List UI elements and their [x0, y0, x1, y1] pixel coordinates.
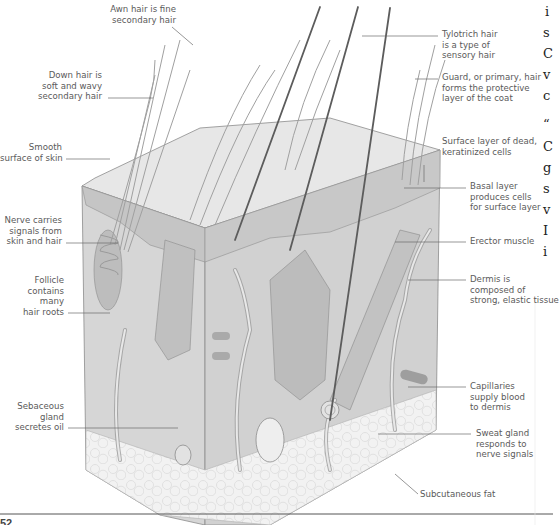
adjacent-page-fragment: s — [543, 179, 550, 199]
adjacent-page-fragment: c — [543, 86, 550, 106]
adjacent-page-fragment: v — [543, 65, 550, 85]
label-guard-hair: Guard, or primary, hair forms the protec… — [442, 72, 541, 104]
label-awn-hair: Awn hair is fine secondary hair — [86, 4, 176, 25]
label-subcutaneous-fat: Subcutaneous fat — [420, 489, 495, 500]
label-down-hair: Down hair is soft and wavy secondary hai… — [20, 70, 102, 102]
adjacent-page-fragment: i — [545, 2, 549, 22]
adjacent-page-fragment: i — [543, 242, 547, 262]
label-sweat-gland: Sweat gland responds to nerve signals — [476, 428, 533, 460]
adjacent-page-fragment: C — [543, 44, 553, 64]
adjacent-page-fragment: g — [543, 158, 551, 178]
label-tylotrich-hair: Tylotrich hair is a type of sensory hair — [442, 29, 497, 61]
label-basal-layer: Basal layer produces cells for surface l… — [470, 181, 541, 213]
label-dermis: Dermis is composed of strong, elastic ti… — [470, 274, 559, 306]
adjacent-page-fragment: v — [543, 200, 550, 220]
label-nerve: Nerve carries signals from skin and hair — [0, 215, 62, 247]
label-surface-layer: Surface layer of dead, keratinized cells — [442, 136, 537, 157]
adjacent-page-fragment: s — [543, 23, 550, 43]
label-smooth-surface: Smooth surface of skin — [0, 142, 62, 163]
adjacent-page-fragment: C — [543, 137, 553, 157]
page-number: 52 — [0, 517, 12, 525]
adjacent-page-fragment: I — [543, 221, 548, 241]
label-erector-muscle: Erector muscle — [470, 236, 534, 247]
label-capillaries: Capillaries supply blood to dermis — [470, 381, 525, 413]
adjacent-page-fragment: “ — [543, 115, 550, 135]
label-sebaceous-gland: Sebaceous gland secretes oil — [0, 401, 64, 433]
label-follicle: Follicle contains many hair roots — [0, 275, 64, 317]
